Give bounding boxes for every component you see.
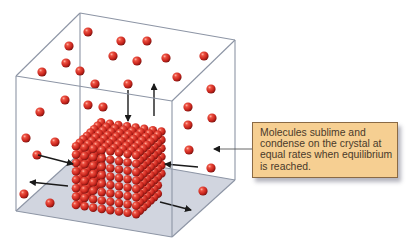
callout-line-4: is reached.: [260, 161, 397, 172]
callout-line-2: condense on the crystal at: [260, 138, 397, 149]
callout-line-1: Molecules sublime and: [260, 127, 397, 138]
callout-line-3: equal rates when equilibrium: [260, 149, 397, 160]
crystal-lattice: [72, 118, 166, 218]
callout-box: Molecules sublime and condense on the cr…: [252, 122, 398, 178]
